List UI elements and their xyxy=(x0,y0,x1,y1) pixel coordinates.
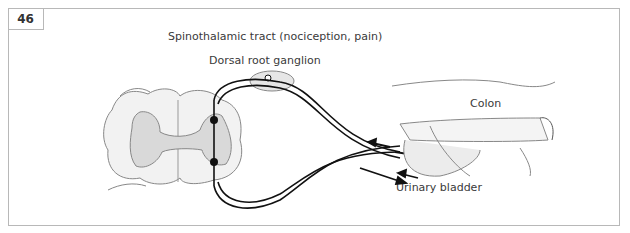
neuron-body-icon xyxy=(210,116,218,124)
diagram-svg xyxy=(0,0,630,233)
neuron-body-icon xyxy=(210,158,218,166)
spinal-cord xyxy=(104,89,242,190)
pelvic-organs xyxy=(392,80,555,176)
